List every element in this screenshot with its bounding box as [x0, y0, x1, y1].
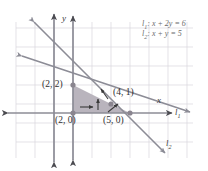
line-label-l1-subscript: 1	[177, 113, 180, 119]
equation-2-body: : x + y = 5	[147, 29, 182, 38]
point-label-4-1: (4, 1)	[113, 87, 134, 97]
line-label-l2-subscript: 2	[168, 144, 171, 150]
line-label-l2: l2	[166, 138, 171, 150]
equation-line-2: l2: x + y = 5	[142, 29, 182, 42]
y-axis-label: y	[62, 13, 66, 23]
vertex-point-5-0	[127, 110, 132, 115]
x-axis-label: x	[157, 95, 161, 105]
point-label-5-0: (5, 0)	[103, 115, 124, 125]
line-label-l1: l1	[175, 107, 180, 119]
point-label-2-0: (2, 0)	[55, 115, 76, 125]
point-label-2-2: (2, 2)	[42, 79, 63, 89]
vertex-point-4-1	[108, 101, 113, 106]
vertex-point-2-2	[70, 82, 75, 87]
graph-figure: y x (2, 2) (4, 1) (2, 0) (5, 0) l1 l2 l1…	[0, 0, 208, 171]
equation-1-body: : x + 2y = 6	[147, 19, 186, 28]
